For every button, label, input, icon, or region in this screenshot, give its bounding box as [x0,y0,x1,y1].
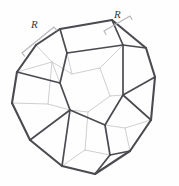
polyhedron-diagram [0,0,179,186]
edge-length-label-left: R [31,19,38,30]
figure-container: R R [0,0,179,186]
figure-background [0,0,179,186]
edge-length-label-right: R [114,9,121,20]
